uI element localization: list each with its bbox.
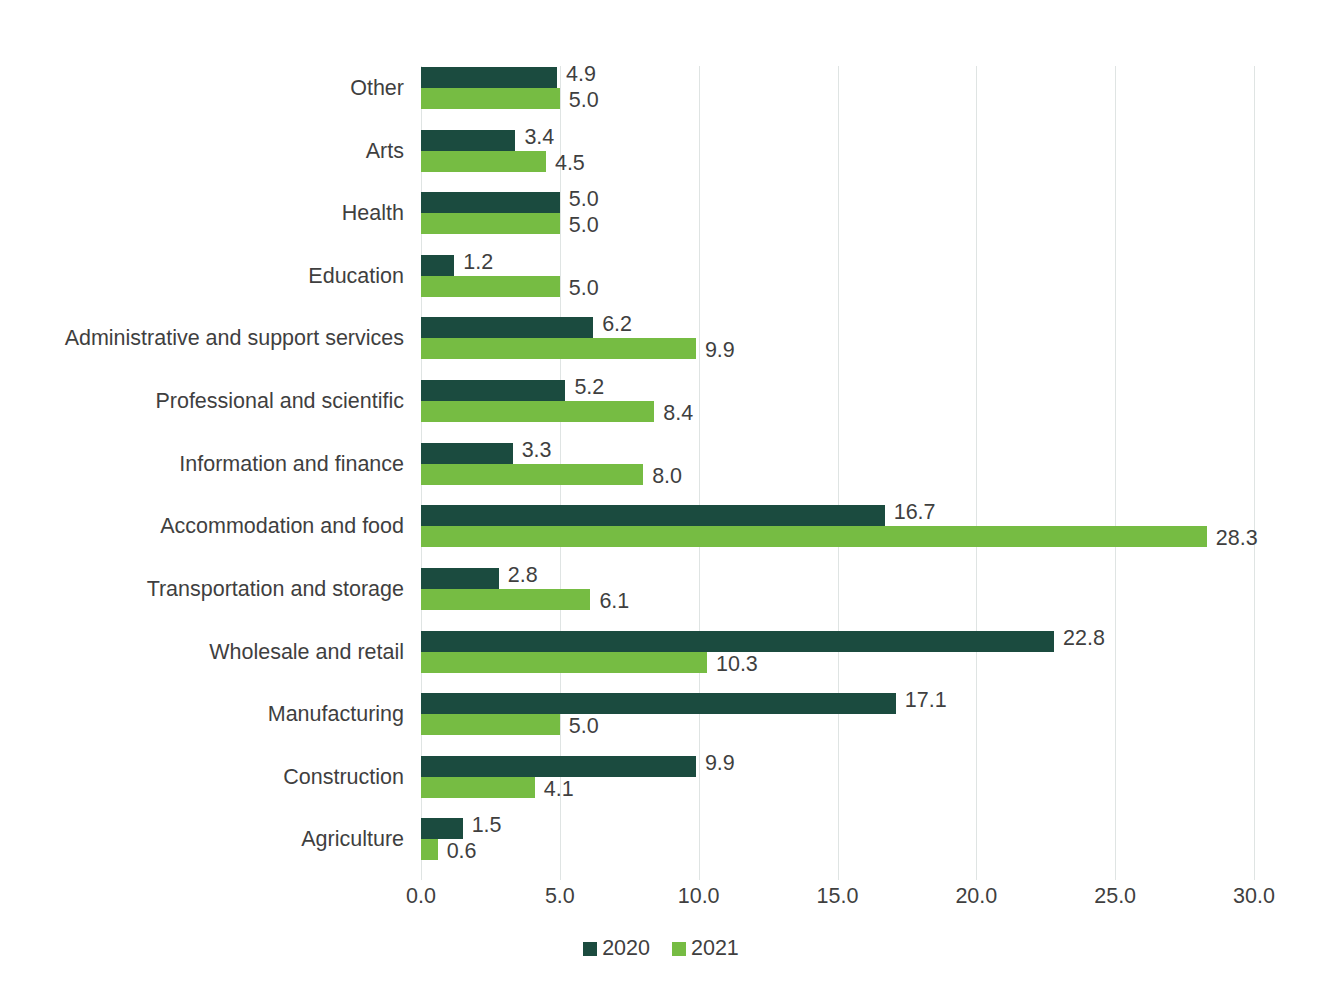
category-row: Administrative and support services6.29.… — [421, 316, 1254, 379]
bar-2020 — [421, 255, 454, 276]
bar-value-2020: 22.8 — [1054, 628, 1105, 649]
category-label: Arts — [366, 129, 421, 173]
legend-swatch-icon — [672, 942, 686, 956]
category-row: Transportation and storage2.86.1 — [421, 567, 1254, 630]
bar-2020 — [421, 130, 515, 151]
category-row: Education1.25.0 — [421, 254, 1254, 317]
legend-swatch-icon — [583, 942, 597, 956]
bar-2021 — [421, 88, 560, 109]
bar-2021 — [421, 464, 643, 485]
bar-value-2021: 5.0 — [560, 716, 599, 737]
bar-value-2020: 9.9 — [696, 753, 735, 774]
category-row: Manufacturing17.15.0 — [421, 692, 1254, 755]
bar-value-2020: 1.5 — [463, 815, 502, 836]
bar-2021 — [421, 401, 654, 422]
category-label: Administrative and support services — [65, 316, 421, 360]
bar-value-2021: 4.5 — [546, 153, 585, 174]
bar-value-2021: 4.1 — [535, 779, 574, 800]
bar-value-2021: 6.1 — [590, 591, 629, 612]
bar-2020 — [421, 693, 896, 714]
x-tick-label: 5.0 — [545, 884, 575, 909]
legend-item[interactable]: 2021 — [672, 938, 739, 960]
bar-value-2020: 6.2 — [593, 314, 632, 335]
x-tick-label: 25.0 — [1094, 884, 1136, 909]
bar-2021 — [421, 652, 707, 673]
bar-2020 — [421, 380, 565, 401]
category-label: Health — [342, 191, 421, 235]
bar-2021 — [421, 714, 560, 735]
category-row: Professional and scientific5.28.4 — [421, 379, 1254, 442]
x-tick-label: 15.0 — [817, 884, 859, 909]
category-label: Accommodation and food — [160, 504, 421, 548]
bar-2020 — [421, 818, 463, 839]
bar-value-2020: 2.8 — [499, 565, 538, 586]
x-tick-label: 10.0 — [678, 884, 720, 909]
bar-2020 — [421, 756, 696, 777]
category-row: Information and finance3.38.0 — [421, 442, 1254, 505]
x-tick-label: 30.0 — [1233, 884, 1275, 909]
bar-value-2020: 5.0 — [560, 189, 599, 210]
bar-2020 — [421, 67, 557, 88]
chart-legend: 20202021 — [0, 938, 1322, 960]
category-label: Manufacturing — [268, 692, 421, 736]
category-label: Transportation and storage — [147, 567, 421, 611]
bar-chart: Other4.95.0Arts3.44.5Health5.05.0Educati… — [0, 0, 1322, 991]
category-label: Agriculture — [301, 817, 421, 861]
legend-label: 2021 — [691, 938, 739, 960]
category-label: Wholesale and retail — [209, 630, 421, 674]
bar-2020 — [421, 505, 885, 526]
category-row: Accommodation and food16.728.3 — [421, 504, 1254, 567]
bar-2021 — [421, 338, 696, 359]
category-row: Wholesale and retail22.810.3 — [421, 630, 1254, 693]
bar-2020 — [421, 443, 513, 464]
bar-2021 — [421, 213, 560, 234]
bar-value-2021: 5.0 — [560, 278, 599, 299]
bar-value-2020: 16.7 — [885, 502, 936, 523]
x-tick-label: 20.0 — [955, 884, 997, 909]
bar-value-2021: 28.3 — [1207, 528, 1258, 549]
bar-2021 — [421, 276, 560, 297]
bar-value-2020: 3.3 — [513, 440, 552, 461]
category-row: Agriculture1.50.6 — [421, 817, 1254, 880]
bar-value-2021: 9.9 — [696, 340, 735, 361]
category-row: Construction9.94.1 — [421, 755, 1254, 818]
category-label: Other — [350, 66, 421, 110]
bar-2021 — [421, 839, 438, 860]
bar-value-2021: 5.0 — [560, 215, 599, 236]
bar-value-2020: 4.9 — [557, 64, 596, 85]
bar-value-2020: 17.1 — [896, 690, 947, 711]
category-label: Information and finance — [179, 442, 421, 486]
bar-2020 — [421, 317, 593, 338]
bar-2021 — [421, 526, 1207, 547]
bar-value-2021: 10.3 — [707, 654, 758, 675]
category-row: Health5.05.0 — [421, 191, 1254, 254]
legend-label: 2020 — [602, 938, 650, 960]
category-label: Education — [308, 254, 421, 298]
bar-2021 — [421, 777, 535, 798]
category-label: Professional and scientific — [155, 379, 421, 423]
bar-value-2021: 5.0 — [560, 90, 599, 111]
bar-2020 — [421, 568, 499, 589]
bar-value-2020: 3.4 — [515, 127, 554, 148]
x-axis: 0.05.010.015.020.025.030.0 — [421, 884, 1254, 918]
plot-area: Other4.95.0Arts3.44.5Health5.05.0Educati… — [421, 66, 1254, 880]
category-row: Arts3.44.5 — [421, 129, 1254, 192]
legend-item[interactable]: 2020 — [583, 938, 650, 960]
bar-value-2020: 1.2 — [454, 252, 493, 273]
bar-2021 — [421, 589, 590, 610]
x-tick-label: 0.0 — [406, 884, 436, 909]
bar-value-2021: 8.4 — [654, 403, 693, 424]
category-label: Construction — [283, 755, 421, 799]
bar-2021 — [421, 151, 546, 172]
bar-2020 — [421, 631, 1054, 652]
bar-value-2021: 0.6 — [438, 841, 477, 862]
category-row: Other4.95.0 — [421, 66, 1254, 129]
gridline-30.0 — [1254, 66, 1255, 880]
bar-2020 — [421, 192, 560, 213]
bar-value-2021: 8.0 — [643, 466, 682, 487]
bar-value-2020: 5.2 — [565, 377, 604, 398]
